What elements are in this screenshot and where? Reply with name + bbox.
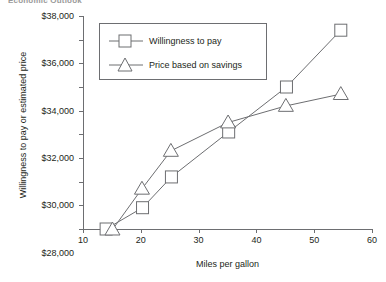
legend-label-0: Willingness to pay [149,29,222,53]
x-tick-label: 30 [194,235,204,245]
y-tick-label: $32,000 [41,153,74,163]
data-point-square-marker [137,202,149,214]
data-point-square-marker [165,171,177,183]
x-tick: 30 [199,229,200,233]
data-point-triangle-marker [134,181,149,194]
data-point-square-marker [335,24,347,36]
x-tick: 50 [314,229,315,233]
y-tick-label: $28,000 [41,248,74,258]
chart-legend: Willingness to pay Price based on saving… [99,23,267,80]
data-point-triangle-marker [163,143,178,156]
legend-triangle-marker-icon [108,53,144,77]
x-tick: 60 [372,229,373,233]
caption-fragment: Economic Outlook [8,0,168,4]
x-axis-line [83,229,373,230]
data-point-triangle-marker [333,87,348,100]
chart-figure: Economic Outlook Willingness to pay or e… [0,0,386,282]
x-tick: 20 [141,229,142,233]
x-tick: 10 [83,229,84,233]
legend-item-price-based-on-savings: Price based on savings [100,53,266,77]
x-tick-label: 40 [251,235,261,245]
x-axis-title: Miles per gallon [83,259,372,269]
x-tick-label: 20 [136,235,146,245]
legend-item-willingness-to-pay: Willingness to pay [100,29,266,53]
legend-label-1: Price based on savings [149,53,242,77]
y-tick-label: $30,000 [41,200,74,210]
x-tick-label: 50 [309,235,319,245]
x-tick-label: 10 [78,235,88,245]
data-point-square-marker [280,81,292,93]
y-tick-label: $36,000 [41,58,74,68]
y-tick-label: $34,000 [41,106,74,116]
legend-square-marker-icon [108,29,144,53]
y-axis-title: Willingness to pay or estimated price [18,20,28,230]
x-tick-label: 60 [367,235,377,245]
x-tick: 40 [256,229,257,233]
y-tick-label: $38,000 [41,11,74,21]
